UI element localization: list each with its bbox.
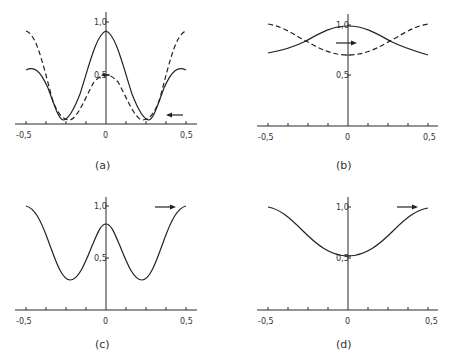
panel-c: 1,0 0,5 -0,5 0 0,5 (c) bbox=[15, 197, 197, 351]
x-label-pos: 0,5 bbox=[423, 133, 436, 142]
x-label-zero: 0 bbox=[345, 133, 350, 142]
x-label-zero: 0 bbox=[345, 317, 350, 326]
x-label-neg: -0,5 bbox=[16, 317, 32, 326]
caption-c: (c) bbox=[95, 338, 110, 351]
caption-d: (d) bbox=[336, 338, 352, 351]
y-label-05: 0,5 bbox=[94, 254, 107, 263]
x-label-neg: -0,5 bbox=[258, 133, 274, 142]
y-label-1: 1,0 bbox=[94, 202, 107, 211]
caption-b: (b) bbox=[336, 159, 352, 172]
panel-a: 1,0 0,5 -0,5 0 0,5 (a) bbox=[15, 12, 197, 172]
x-label-pos: 0,5 bbox=[180, 317, 193, 326]
x-label-zero: 0 bbox=[103, 317, 108, 326]
figure-canvas: 1,0 0,5 -0,5 0 0,5 (a) 1,0 0,5 -0,5 bbox=[0, 0, 451, 359]
panel-b: 1,0 0,5 -0,5 0 0,5 (b) bbox=[257, 14, 438, 172]
arrow-right-icon bbox=[155, 205, 176, 210]
arrow-right-icon bbox=[397, 205, 418, 210]
caption-a: (a) bbox=[95, 159, 110, 172]
arrow-left-icon bbox=[166, 113, 183, 118]
x-label-pos: 0,5 bbox=[180, 131, 193, 140]
y-label-1: 1,0 bbox=[336, 203, 349, 212]
y-label-05: 0,5 bbox=[336, 71, 349, 80]
panel-d: 1,0 0,5 -0,5 0 0,5 (d) bbox=[257, 197, 438, 351]
x-label-neg: -0,5 bbox=[16, 131, 32, 140]
x-label-neg: -0,5 bbox=[258, 317, 274, 326]
x-label-zero: 0 bbox=[103, 131, 108, 140]
x-label-pos: 0,5 bbox=[425, 317, 438, 326]
y-label-1: 1,0 bbox=[94, 18, 107, 27]
arrow-right-icon bbox=[336, 41, 357, 46]
